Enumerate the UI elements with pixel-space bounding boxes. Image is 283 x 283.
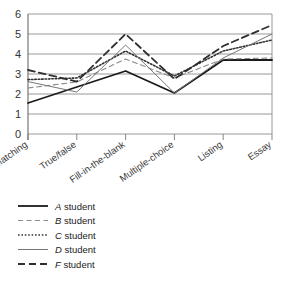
y-axis-tick-label: 6: [15, 8, 21, 20]
y-axis-tick-label: 5: [15, 28, 21, 40]
legend-label-c: C student: [55, 230, 96, 241]
legend-label-b: B student: [55, 215, 96, 226]
y-axis-tick-label: 3: [15, 68, 21, 80]
legend-label-d: D student: [55, 244, 96, 255]
plot-background: [0, 0, 283, 283]
y-axis-tick-label: 2: [15, 88, 21, 100]
chart-container: 0123456 MatchingTrue/falseFill-in-the-bl…: [0, 0, 283, 283]
y-axis-tick-label: 1: [15, 108, 21, 120]
line-chart: 0123456 MatchingTrue/falseFill-in-the-bl…: [0, 0, 283, 283]
legend-label-f: F student: [55, 259, 95, 270]
y-axis-tick-label: 4: [15, 48, 21, 60]
y-axis-tick-label: 0: [15, 128, 21, 140]
legend-label-a: A student: [54, 201, 96, 212]
